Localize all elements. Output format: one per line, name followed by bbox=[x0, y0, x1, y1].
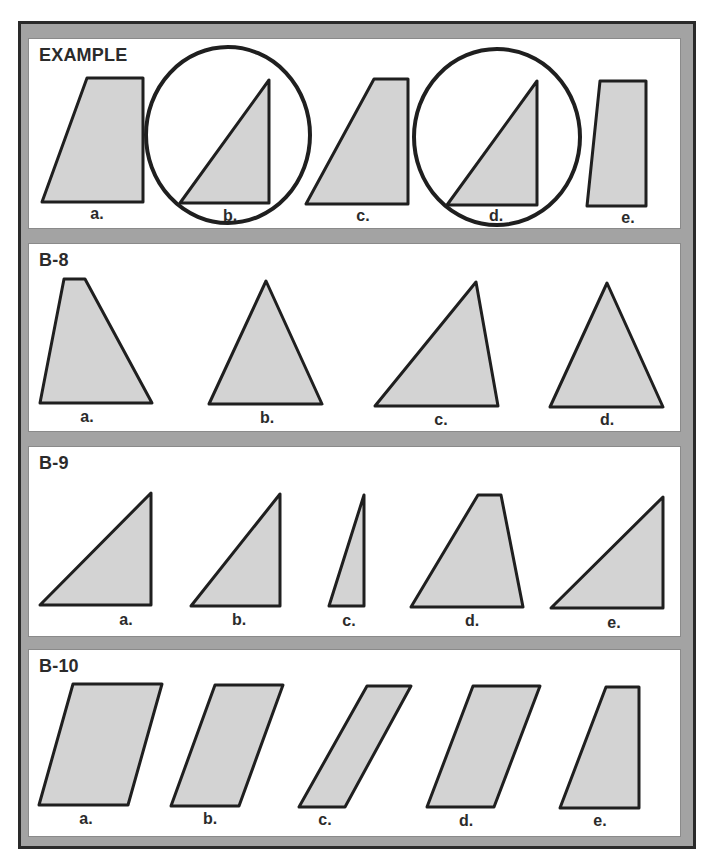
b9-shapes bbox=[29, 447, 682, 638]
shape-d bbox=[550, 283, 663, 407]
example-shapes bbox=[29, 39, 682, 230]
panel-b10: B-10 a. b. c. d. e. bbox=[28, 649, 681, 837]
shape-c bbox=[299, 686, 411, 807]
option-label-c: c. bbox=[342, 612, 355, 630]
option-label-b: b. bbox=[223, 207, 237, 225]
b10-shapes bbox=[29, 650, 682, 838]
option-label-c: c. bbox=[318, 811, 331, 829]
option-label-d: d. bbox=[489, 207, 503, 225]
option-label-b: b. bbox=[232, 611, 246, 629]
shape-d bbox=[427, 686, 540, 807]
option-label-e: e. bbox=[621, 209, 634, 227]
shape-c bbox=[329, 495, 364, 606]
shape-b bbox=[191, 494, 280, 606]
option-label-e: e. bbox=[593, 812, 606, 830]
b8-shapes bbox=[29, 244, 682, 433]
shape-a bbox=[39, 684, 162, 805]
option-label-a: a. bbox=[119, 611, 132, 629]
option-label-b: b. bbox=[203, 810, 217, 828]
shape-e bbox=[560, 687, 639, 808]
shape-a bbox=[40, 279, 152, 403]
shape-d bbox=[411, 495, 523, 607]
option-label-a: a. bbox=[80, 408, 93, 426]
option-label-a: a. bbox=[79, 810, 92, 828]
option-label-d: d. bbox=[600, 411, 614, 429]
panel-b8: B-8 a. b. c. d. bbox=[28, 243, 681, 432]
shape-d bbox=[447, 81, 537, 205]
panel-example: EXAMPLE a. b. c. d. e. bbox=[28, 38, 681, 229]
shape-b bbox=[180, 80, 269, 203]
shape-b bbox=[209, 281, 322, 404]
shape-b bbox=[171, 685, 283, 806]
shape-a bbox=[42, 78, 143, 202]
option-label-e: e. bbox=[607, 614, 620, 632]
option-label-d: d. bbox=[465, 612, 479, 630]
panel-b9: B-9 a. b. c. d. e. bbox=[28, 446, 681, 637]
option-label-b: b. bbox=[260, 409, 274, 427]
shape-c bbox=[375, 282, 498, 406]
option-label-c: c. bbox=[356, 207, 369, 225]
option-label-c: c. bbox=[434, 411, 447, 429]
shape-a bbox=[40, 493, 151, 605]
shape-e bbox=[551, 497, 663, 608]
option-label-d: d. bbox=[459, 812, 473, 830]
option-label-a: a. bbox=[90, 205, 103, 223]
shape-e bbox=[587, 81, 646, 206]
shape-c bbox=[306, 79, 408, 204]
